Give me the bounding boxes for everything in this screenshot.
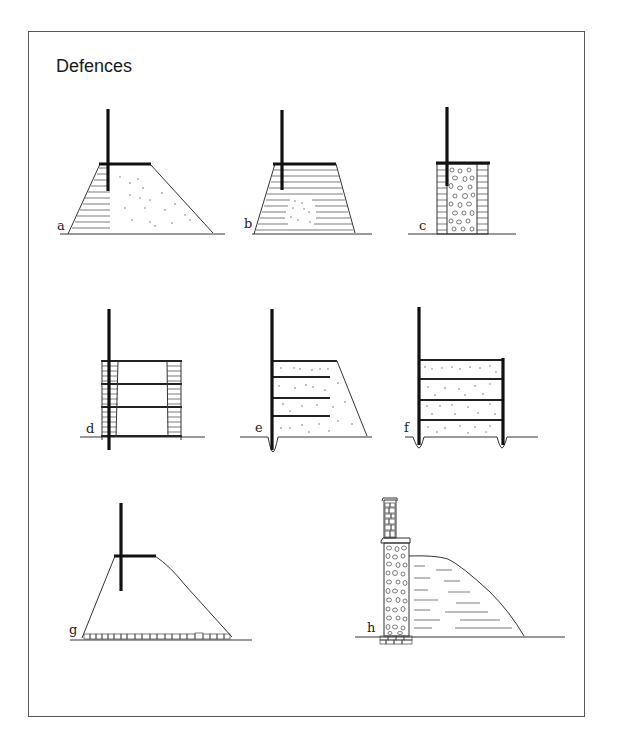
defences-diagram: a (0, 0, 619, 745)
page: Defences (0, 0, 619, 745)
figure-label-f: f (404, 420, 410, 435)
figure-label-d: d (86, 421, 94, 436)
figure-g: g (69, 503, 252, 640)
figure-label-g: g (69, 622, 77, 637)
figure-d: d (80, 309, 205, 450)
figure-label-a: a (57, 218, 65, 233)
figure-h: h (355, 498, 565, 644)
figure-label-e: e (255, 420, 263, 435)
figure-a: a (57, 109, 225, 234)
figure-c: c (408, 107, 516, 234)
figure-f: f (404, 307, 538, 448)
figure-e: e (240, 309, 372, 452)
figure-label-c: c (419, 218, 426, 233)
figure-b: b (244, 110, 372, 234)
figure-label-h: h (367, 620, 376, 635)
figure-label-b: b (244, 216, 252, 231)
